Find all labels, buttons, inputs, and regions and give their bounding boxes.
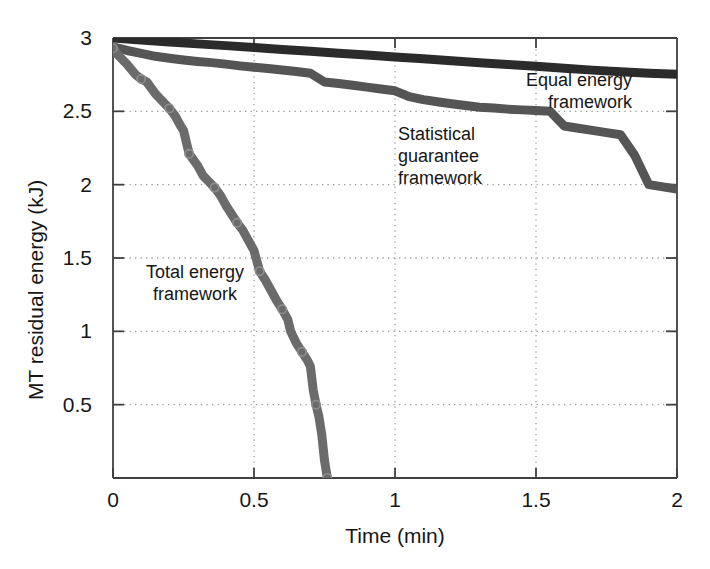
x-axis-label: Time (min) [345,524,445,548]
x-tick-label-0-5: 0.5 [239,488,268,512]
x-tick-label-2: 2 [671,488,683,512]
x-tick-label-1-5: 1.5 [521,488,550,512]
chart-figure: 0.5 1 1.5 2 2.5 3 0 0.5 1 1.5 2 MT resid… [0,0,710,569]
annotation-total-energy: Total energy framework [133,262,257,306]
x-tick-label-1: 1 [389,488,401,512]
y-tick-label-2-5: 2.5 [30,99,92,123]
annotation-equal-energy: Equal energy framework [460,70,632,114]
annotation-statistical-guarantee: Statistical guarantee framework [398,124,548,190]
x-tick-label-0: 0 [107,488,119,512]
y-tick-label-3: 3 [30,26,92,50]
y-axis-label: MT residual energy (kJ) [24,180,48,400]
